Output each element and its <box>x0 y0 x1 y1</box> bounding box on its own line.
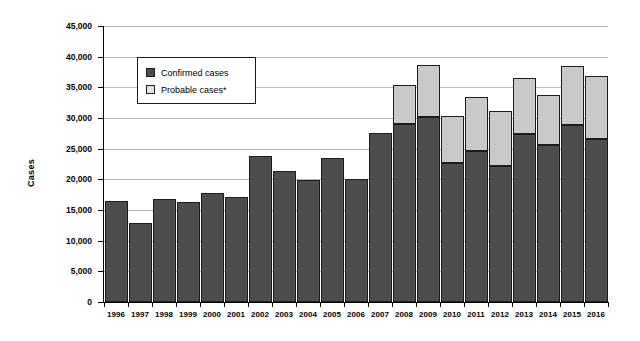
x-axis-tick <box>392 302 393 307</box>
bar-segment-confirmed <box>201 193 224 302</box>
bar-column <box>153 199 176 302</box>
legend-swatch-confirmed-icon <box>146 68 155 77</box>
bar-column <box>129 223 152 302</box>
legend-item-probable: Probable cases* <box>146 81 247 98</box>
bar-segment-confirmed <box>561 125 584 302</box>
bar-segment-probable <box>513 78 536 134</box>
bar-column <box>249 156 272 302</box>
x-axis-tick <box>224 302 225 307</box>
x-axis-tick-label: 2011 <box>464 310 488 319</box>
y-axis-tick-label: 0 <box>0 297 92 307</box>
x-axis-tick-label: 1998 <box>152 310 176 319</box>
bar-column <box>105 201 128 302</box>
bar-column <box>585 76 608 302</box>
x-axis-tick <box>584 302 585 307</box>
bar-segment-probable <box>561 66 584 125</box>
bar-column <box>297 180 320 302</box>
bar-segment-confirmed <box>153 199 176 302</box>
x-axis-tick <box>560 302 561 307</box>
y-axis-tick-label: 35,000 <box>0 82 92 92</box>
x-axis-tick-label: 2001 <box>224 310 248 319</box>
x-axis-tick <box>320 302 321 307</box>
bar-segment-probable <box>537 95 560 145</box>
bar-segment-probable <box>441 116 464 163</box>
x-axis-tick-label: 2005 <box>320 310 344 319</box>
bar-segment-confirmed <box>249 156 272 302</box>
x-axis-tick <box>464 302 465 307</box>
x-axis-tick-label: 2013 <box>512 310 536 319</box>
bar-segment-confirmed <box>105 201 128 302</box>
bar-segment-probable <box>465 97 488 151</box>
x-axis-tick <box>128 302 129 307</box>
x-axis-tick <box>176 302 177 307</box>
y-axis-tick-label: 20,000 <box>0 174 92 184</box>
y-axis-tick-label: 10,000 <box>0 236 92 246</box>
bar-segment-confirmed <box>225 197 248 302</box>
y-axis-tick-labels: 05,00010,00015,00020,00025,00030,00035,0… <box>0 0 100 341</box>
bar-column <box>465 97 488 302</box>
bar-column <box>537 95 560 302</box>
legend-label-confirmed: Confirmed cases <box>161 68 229 78</box>
bar-segment-probable <box>393 85 416 124</box>
bar-segment-confirmed <box>417 117 440 302</box>
bar-column <box>225 197 248 302</box>
legend-label-probable: Probable cases* <box>161 85 227 95</box>
bar-segment-confirmed <box>177 202 200 302</box>
bar-segment-confirmed <box>585 139 608 302</box>
x-axis-tick-label: 2002 <box>248 310 272 319</box>
bar-column <box>177 202 200 302</box>
x-axis-tick-label: 1999 <box>176 310 200 319</box>
x-axis-tick <box>416 302 417 307</box>
y-axis-tick-label: 5,000 <box>0 266 92 276</box>
y-axis-tick-label: 25,000 <box>0 144 92 154</box>
bar-segment-confirmed <box>321 158 344 302</box>
x-axis-tick-label: 2009 <box>416 310 440 319</box>
x-axis-tick <box>296 302 297 307</box>
bar-segment-confirmed <box>345 179 368 302</box>
bar-segment-confirmed <box>297 180 320 302</box>
x-axis-tick <box>200 302 201 307</box>
bar-column <box>273 171 296 302</box>
x-axis-tick-label: 2003 <box>272 310 296 319</box>
x-axis-tick <box>272 302 273 307</box>
x-axis-tick <box>368 302 369 307</box>
x-axis-tick <box>104 302 105 307</box>
x-axis-tick <box>248 302 249 307</box>
y-axis-tick-label: 15,000 <box>0 205 92 215</box>
x-axis-tick <box>152 302 153 307</box>
bar-column <box>441 116 464 302</box>
x-axis-tick <box>440 302 441 307</box>
bar-segment-confirmed <box>369 133 392 302</box>
x-axis-tick-label: 2008 <box>392 310 416 319</box>
x-axis-tick-label: 2006 <box>344 310 368 319</box>
bar-column <box>513 78 536 302</box>
bar-segment-confirmed <box>465 151 488 302</box>
x-axis-tick <box>608 302 609 307</box>
x-axis-tick-label: 1997 <box>128 310 152 319</box>
bar-segment-confirmed <box>441 163 464 302</box>
bar-segment-probable <box>489 111 512 166</box>
legend-item-confirmed: Confirmed cases <box>146 64 247 81</box>
y-axis-tick-label: 30,000 <box>0 113 92 123</box>
x-axis-tick-label: 2010 <box>440 310 464 319</box>
x-axis-tick-label: 2012 <box>488 310 512 319</box>
x-axis-tick <box>488 302 489 307</box>
x-axis-tick <box>536 302 537 307</box>
x-axis-tick-label: 1996 <box>104 310 128 319</box>
bar-segment-confirmed <box>489 166 512 302</box>
y-axis-tick-label: 40,000 <box>0 52 92 62</box>
bar-segment-probable <box>585 76 608 139</box>
bar-column <box>345 179 368 302</box>
x-axis-tick-labels: 1996199719981999200020012002200320042005… <box>104 310 608 328</box>
x-axis-tick-label: 2007 <box>368 310 392 319</box>
bar-column <box>321 158 344 302</box>
x-axis-tick <box>512 302 513 307</box>
bar-column <box>417 65 440 302</box>
bar-column <box>369 133 392 302</box>
x-axis-tick <box>344 302 345 307</box>
x-axis-tick-label: 2000 <box>200 310 224 319</box>
y-axis-tick-label: 45,000 <box>0 21 92 31</box>
bar-column <box>489 111 512 302</box>
x-axis-ticks <box>104 302 608 308</box>
legend-swatch-probable-icon <box>146 85 155 94</box>
